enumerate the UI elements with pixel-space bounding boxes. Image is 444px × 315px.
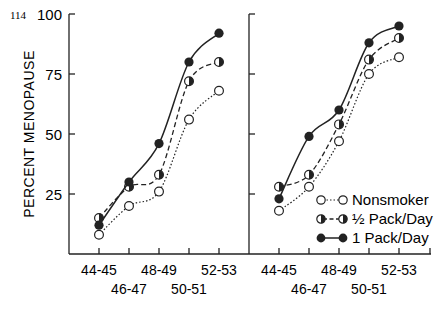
- open-circle-icon: [305, 182, 314, 191]
- filled-circle-icon: [184, 57, 193, 66]
- filled-circle-icon: [304, 132, 313, 141]
- open-circle-icon: [365, 70, 374, 79]
- legend: Nonsmoker ½ Pack/Day 1 Pack/Day: [317, 191, 434, 246]
- filled-circle-icon: [274, 194, 283, 203]
- filled-circle-icon: [154, 139, 163, 148]
- legend-label: Nonsmoker: [352, 191, 429, 208]
- half-filled-circle-icon: [305, 170, 314, 179]
- x-tick-52-53: 52-53: [201, 262, 237, 278]
- open-circle-icon: [275, 206, 284, 215]
- x-tick-48-49: 48-49: [141, 262, 177, 278]
- x-tick-50-51: 50-51: [171, 281, 207, 297]
- y-tick-75: 75: [45, 66, 62, 83]
- half-filled-circle-icon: [395, 34, 404, 43]
- half-filled-circle-icon: [155, 170, 164, 179]
- x-tick-44-45: 44-45: [81, 262, 117, 278]
- y-axis-label: PERCENT MENOPAUSE: [21, 50, 37, 217]
- panel-left: [94, 29, 223, 240]
- x-tick-48-49: 48-49: [321, 262, 357, 278]
- open-circle-icon: [95, 230, 104, 239]
- open-circle-icon: [335, 137, 344, 146]
- x-tick-44-45: 44-45: [261, 262, 297, 278]
- filled-circle-icon: [364, 38, 373, 47]
- half-filled-circle-icon: [365, 55, 374, 64]
- half-filled-circle-icon: [275, 182, 284, 191]
- chart: 114 PERCENT MENOPAUSE 100 75 50 25: [0, 0, 444, 315]
- open-circle-icon: [317, 196, 325, 204]
- half-filled-circle-icon: [215, 58, 224, 67]
- half-filled-circle-icon: [185, 77, 194, 86]
- series-line: [99, 91, 219, 235]
- x-tick-50-51: 50-51: [351, 281, 387, 297]
- series-line: [279, 57, 399, 211]
- x-tick-labels-left: 44-45 48-49 52-53 46-47 50-51: [81, 262, 237, 297]
- filled-circle-icon: [214, 29, 223, 38]
- panel-right: [274, 21, 403, 215]
- open-circle-icon: [125, 202, 134, 211]
- half-circle-icon: [339, 215, 347, 223]
- y-tick-50: 50: [45, 126, 62, 143]
- legend-item-one-pack: 1 Pack/Day: [317, 229, 430, 246]
- page-number: 114: [10, 9, 27, 21]
- legend-label: 1 Pack/Day: [352, 229, 429, 246]
- filled-circle-icon: [394, 21, 403, 30]
- legend-item-half-pack: ½ Pack/Day: [317, 210, 434, 227]
- half-circle-icon: [317, 215, 325, 223]
- y-tick-100: 100: [37, 6, 62, 23]
- x-tick-46-47: 46-47: [291, 281, 327, 297]
- filled-circle-icon: [334, 105, 343, 114]
- x-tick-46-47: 46-47: [111, 281, 147, 297]
- open-circle-icon: [395, 53, 404, 62]
- y-tick-labels: 100 75 50 25: [37, 6, 62, 203]
- open-circle-icon: [339, 196, 347, 204]
- filled-circle-icon: [317, 234, 326, 243]
- open-circle-icon: [215, 86, 224, 95]
- legend-label: ½ Pack/Day: [352, 210, 433, 227]
- legend-item-nonsmoker: Nonsmoker: [317, 191, 429, 208]
- open-circle-icon: [155, 187, 164, 196]
- x-tick-labels-right: 44-45 48-49 52-53 46-47 50-51: [261, 262, 417, 297]
- x-tick-52-53: 52-53: [381, 262, 417, 278]
- filled-circle-icon: [339, 234, 348, 243]
- half-filled-circle-icon: [335, 120, 344, 129]
- filled-circle-icon: [124, 177, 133, 186]
- filled-circle-icon: [94, 221, 103, 230]
- open-circle-icon: [185, 115, 194, 124]
- y-tick-25: 25: [45, 186, 62, 203]
